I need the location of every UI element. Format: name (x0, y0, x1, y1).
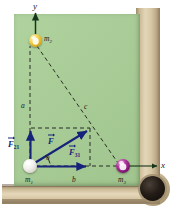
vector-F31-sub: 31 (75, 152, 81, 158)
ball-m1 (23, 159, 37, 173)
vector-arrow-bar-F (48, 133, 55, 137)
vector-label-F-letter: F (48, 136, 54, 146)
physics-figure: y x m2 m1 m3 a b c θ F21 F31 F (0, 0, 174, 217)
mass-label-m2: m2 (44, 35, 52, 44)
vector-label-F-resultant: F (48, 137, 54, 146)
mass-label-m3: m3 (118, 176, 126, 185)
angle-theta-label: θ (46, 155, 49, 162)
vector-label-F31: F31 (69, 148, 80, 158)
mass-label-m2-sub: 2 (49, 39, 52, 44)
x-axis-label: x (161, 161, 165, 170)
ball-m2-number (32, 38, 39, 45)
vector-F31-F: F (69, 147, 75, 157)
ball-m2 (29, 34, 42, 47)
mass-label-m1: m1 (25, 176, 33, 185)
ball-m1-highlight (26, 161, 31, 165)
vector-label-F31-letter: F (69, 147, 75, 157)
vector-F-F: F (48, 136, 54, 146)
ball-m3 (116, 159, 130, 173)
vector-F21-F: F (8, 139, 14, 149)
mass-label-m3-sub: 3 (123, 180, 126, 185)
vector-label-F21: F21 (8, 140, 19, 150)
y-axis-label: y (33, 2, 37, 11)
side-label-a: a (21, 102, 25, 110)
vector-label-F21-letter: F (8, 139, 14, 149)
vector-F21-sub: 21 (14, 144, 20, 150)
vector-arrow-bar-F21 (8, 136, 15, 140)
vector-arrow-bar-F31 (69, 144, 76, 148)
ball-m3-number (119, 163, 126, 170)
side-label-b: b (72, 176, 76, 184)
mass-label-m1-sub: 1 (30, 180, 33, 185)
side-label-c: c (84, 103, 87, 111)
